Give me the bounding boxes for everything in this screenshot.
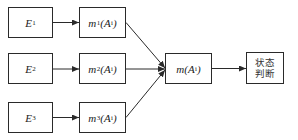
source-e3-box: E3 — [8, 102, 53, 133]
source-e3-label: E — [25, 112, 32, 124]
source-e1-label: E — [25, 17, 32, 29]
fusion-box: m(Ai) — [165, 53, 212, 84]
mass-function-m1-box: m1(Ai) — [79, 7, 126, 38]
source-e1-box: E1 — [8, 7, 53, 38]
arrow-m3-fusion — [126, 70, 165, 118]
source-e2-label: E — [25, 63, 32, 75]
mass-function-m2-box: m2(Ai) — [79, 53, 126, 84]
state-decision-box: 状态 判断 — [246, 52, 284, 84]
decision-line2: 判断 — [255, 68, 275, 79]
arrow-m1-fusion — [126, 23, 165, 69]
decision-line1: 状态 — [255, 57, 275, 68]
mass-function-m3-box: m3(Ai) — [79, 102, 126, 133]
source-e2-box: E2 — [8, 53, 53, 84]
